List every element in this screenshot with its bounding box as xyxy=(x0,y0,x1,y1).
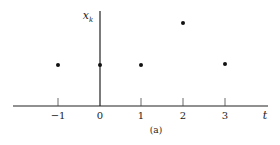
data-point xyxy=(181,21,185,25)
x-tick-label: 3 xyxy=(222,110,228,121)
discrete-signal-figure: −1 0 1 2 3 t xk (a) xyxy=(0,0,280,145)
y-axis-label: xk xyxy=(83,9,93,24)
y-axis-label-subscript: k xyxy=(89,16,93,24)
data-point xyxy=(139,63,143,67)
x-tick-label: 2 xyxy=(180,110,186,121)
data-point xyxy=(223,62,227,66)
x-axis-label: t xyxy=(263,109,268,122)
data-point xyxy=(56,63,60,67)
figure-caption: (a) xyxy=(150,125,162,135)
x-tick-label: −1 xyxy=(51,110,66,121)
data-point xyxy=(98,63,102,67)
x-tick-label: 1 xyxy=(138,110,144,121)
x-tick-label: 0 xyxy=(97,110,103,121)
stem-plot: −1 0 1 2 3 t xk (a) xyxy=(0,0,280,145)
